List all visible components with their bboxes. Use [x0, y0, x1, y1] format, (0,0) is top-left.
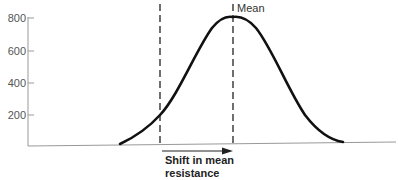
shift-label-line2: resistance [165, 167, 219, 179]
mean-label: Mean [237, 2, 265, 14]
ytick-label-400: 400 [8, 77, 26, 89]
shift-label-line1: Shift in mean [165, 154, 234, 166]
distribution-curve [120, 17, 343, 144]
bell-curve-chart: 800 600 400 200 Mean Shift in mean resis… [0, 0, 398, 180]
ytick-label-200: 200 [8, 109, 26, 121]
ytick-label-600: 600 [8, 45, 26, 57]
ytick-label-800: 800 [8, 12, 26, 24]
